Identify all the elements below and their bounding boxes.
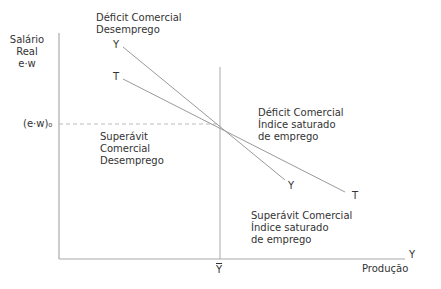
curve-t-label: T: [113, 71, 119, 83]
region-right-line-1: Déficit Comercial: [258, 107, 344, 119]
region-label-right: Déficit Comercial Índice saturado de emp…: [258, 107, 344, 143]
curve-y-label: Y: [113, 39, 119, 51]
region-bottom-right-line-1: Superávit Comercial: [251, 210, 352, 222]
y-axis-label-line-1: Salário: [4, 34, 50, 46]
region-bottom-right-line-3: de emprego: [251, 234, 352, 246]
region-bottom-right-line-2: Índice saturado: [251, 222, 352, 234]
region-left-line-1: Superávit: [100, 131, 164, 143]
x-axis-label: Produção: [362, 263, 408, 275]
equilibrium-wage-label: (e·w)₀: [23, 118, 52, 130]
curve-t-end-label: T: [352, 190, 358, 202]
region-left-line-2: Comercial: [100, 143, 164, 155]
curve-y-end-label: Y: [288, 180, 294, 192]
region-label-bottom-right: Superávit Comercial Índice saturado de e…: [251, 210, 352, 246]
x-axis-symbol: Y: [409, 249, 415, 261]
region-top-line-2: Desemprego: [96, 24, 182, 36]
full-employment-output-label: Y: [216, 264, 222, 276]
region-right-line-2: Índice saturado: [258, 119, 344, 131]
region-top-line-1: Déficit Comercial: [96, 12, 182, 24]
region-left-line-3: Desemprego: [100, 155, 164, 167]
region-label-left: Superávit Comercial Desemprego: [100, 131, 164, 167]
region-label-top: Déficit Comercial Desemprego: [96, 12, 182, 36]
diagram-canvas: [0, 0, 441, 289]
region-right-line-3: de emprego: [258, 131, 344, 143]
y-axis-label: Salário Real e·w: [4, 34, 50, 70]
y-axis-label-line-3: e·w: [4, 58, 50, 70]
y-axis-label-line-2: Real: [4, 46, 50, 58]
